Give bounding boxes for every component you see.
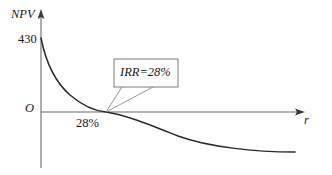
irr-callout-label: IRR=28% bbox=[120, 66, 171, 79]
callout-leader-line-right bbox=[106, 87, 153, 112]
y-axis-label: NPV bbox=[11, 8, 35, 21]
origin-label: O bbox=[25, 102, 34, 115]
chart-canvas bbox=[0, 0, 332, 175]
x-crossing-tick-label: 28% bbox=[76, 117, 99, 130]
y-intercept-tick-label: 430 bbox=[18, 33, 37, 46]
npv-irr-chart: NPV 430 O 28% r IRR=28% bbox=[0, 0, 332, 175]
npv-curve bbox=[41, 38, 295, 152]
x-axis-label: r bbox=[304, 114, 309, 127]
